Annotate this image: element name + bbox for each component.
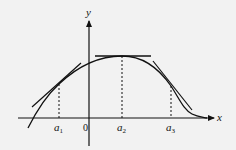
function-curve xyxy=(28,56,207,128)
point-label-a1: a1 xyxy=(54,121,64,135)
tangent-lines-diagram: y x 0 a1 a2 a3 xyxy=(0,0,236,150)
y-axis-label: y xyxy=(85,6,91,18)
tangent-line-a1 xyxy=(32,63,81,107)
tangent-line-a3 xyxy=(153,61,192,110)
x-axis-label: x xyxy=(216,111,222,123)
point-label-a3: a3 xyxy=(166,121,176,135)
origin-label: 0 xyxy=(83,122,88,133)
point-label-a2: a2 xyxy=(117,121,127,135)
